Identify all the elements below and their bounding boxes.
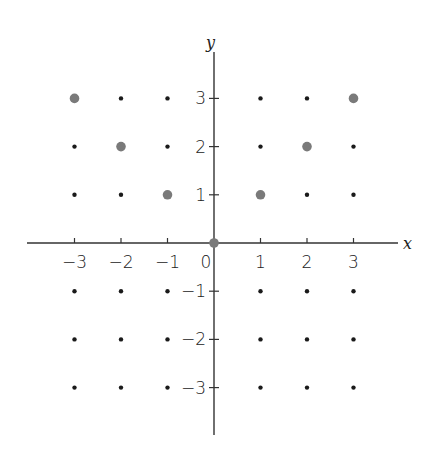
y-tick-label: 2	[195, 137, 206, 157]
lattice-point	[72, 385, 76, 389]
x-tick-label: 1	[255, 252, 266, 272]
lattice-point	[165, 337, 169, 341]
lattice-point	[258, 96, 262, 100]
lattice-point	[351, 144, 355, 148]
x-tick-label: 0	[201, 252, 212, 272]
y-axis-label: y	[205, 33, 216, 52]
lattice-point	[72, 337, 76, 341]
lattice-point	[351, 385, 355, 389]
lattice-point	[165, 289, 169, 293]
lattice-point	[258, 337, 262, 341]
lattice-point	[258, 385, 262, 389]
lattice-point	[165, 96, 169, 100]
x-tick-label: −3	[62, 252, 87, 272]
coordinate-plane: −3−2−10123321−1−2−3 x y	[0, 0, 434, 452]
lattice-point	[72, 193, 76, 197]
lattice-point	[305, 337, 309, 341]
lattice-point	[305, 193, 309, 197]
highlighted-point	[302, 142, 312, 152]
lattice-point	[258, 144, 262, 148]
x-tick-label: −2	[108, 252, 133, 272]
lattice-point	[119, 193, 123, 197]
highlighted-point	[116, 142, 126, 152]
lattice-point	[351, 193, 355, 197]
highlighted-point	[70, 94, 80, 104]
lattice-point	[72, 289, 76, 293]
lattice-point	[305, 96, 309, 100]
highlighted-point	[209, 238, 219, 248]
highlighted-point	[163, 190, 173, 200]
highlighted-point	[256, 190, 266, 200]
lattice-point	[305, 385, 309, 389]
lattice-point	[119, 96, 123, 100]
lattice-point	[258, 289, 262, 293]
lattice-point	[119, 385, 123, 389]
y-tick-label: −2	[181, 329, 206, 349]
x-axis-label: x	[403, 234, 412, 253]
lattice-point	[351, 289, 355, 293]
lattice-point	[119, 337, 123, 341]
lattice-point	[119, 289, 123, 293]
x-tick-label: 3	[348, 252, 359, 272]
y-tick-label: −3	[181, 378, 206, 398]
lattice-point	[165, 144, 169, 148]
lattice-point	[72, 144, 76, 148]
y-tick-label: −1	[181, 281, 206, 301]
y-tick-label: 1	[195, 185, 206, 205]
x-tick-label: 2	[302, 252, 313, 272]
y-tick-label: 3	[195, 88, 206, 108]
lattice-point	[351, 337, 355, 341]
highlighted-point	[349, 94, 359, 104]
lattice-point	[305, 289, 309, 293]
lattice-point	[165, 385, 169, 389]
x-tick-label: −1	[155, 252, 180, 272]
